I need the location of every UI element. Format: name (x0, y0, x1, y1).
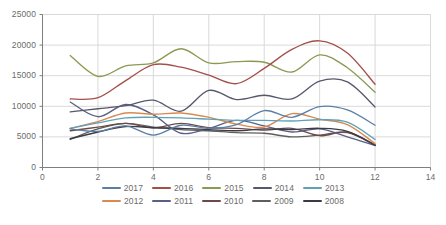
y-tick-label: 0 (0, 162, 36, 172)
legend-label: 2008 (325, 196, 344, 206)
series-group (70, 41, 375, 146)
legend-item-2012[interactable]: 2012 (102, 196, 143, 206)
x-tick-label: 10 (308, 172, 332, 182)
y-tick-label: 20000 (0, 40, 36, 50)
legend-label: 2013 (325, 183, 344, 193)
y-tick-label: 15000 (0, 70, 36, 80)
legend-item-2016[interactable]: 2016 (152, 183, 193, 193)
legend-swatch-icon (202, 187, 221, 189)
x-tick-label: 8 (252, 172, 276, 182)
legend-label: 2016 (174, 183, 193, 193)
legend-label: 2015 (224, 183, 243, 193)
legend-label: 2011 (174, 196, 193, 206)
legend-item-2014[interactable]: 2014 (253, 183, 294, 193)
legend-item-2015[interactable]: 2015 (202, 183, 243, 193)
chart-legend: 20172016201520142013 2012201120102009200… (0, 181, 446, 221)
legend-item-2008[interactable]: 2008 (303, 196, 344, 206)
legend-item-2017[interactable]: 2017 (102, 183, 143, 193)
legend-item-2010[interactable]: 2010 (202, 196, 243, 206)
x-tick-label: 4 (141, 172, 165, 182)
legend-swatch-icon (253, 187, 272, 189)
x-tick-label: 2 (86, 172, 110, 182)
legend-item-2011[interactable]: 2011 (152, 196, 193, 206)
plot-svg (0, 0, 446, 180)
series-line-2008 (70, 126, 375, 145)
legend-label: 2012 (124, 196, 143, 206)
legend-swatch-icon (252, 200, 271, 202)
legend-swatch-icon (202, 200, 221, 202)
y-tick-label: 10000 (0, 101, 36, 111)
legend-label: 2014 (275, 183, 294, 193)
legend-label: 2017 (124, 183, 143, 193)
legend-label: 2009 (274, 196, 293, 206)
y-tick-label: 25000 (0, 9, 36, 19)
plot-area (0, 0, 446, 180)
legend-row-bottom: 20122011201020092008 (0, 194, 446, 207)
legend-swatch-icon (303, 200, 322, 202)
x-tick-label: 6 (197, 172, 221, 182)
legend-swatch-icon (102, 187, 121, 189)
line-chart: 0500010000150002000025000 02468101214 20… (0, 0, 446, 225)
legend-item-2013[interactable]: 2013 (303, 183, 344, 193)
x-tick-label: 14 (419, 172, 443, 182)
x-tick-label: 12 (363, 172, 387, 182)
series-line-2015 (70, 49, 375, 92)
legend-item-2009[interactable]: 2009 (252, 196, 293, 206)
legend-label: 2010 (224, 196, 243, 206)
x-tick-label: 0 (31, 172, 55, 182)
legend-swatch-icon (303, 187, 322, 189)
legend-swatch-icon (152, 200, 171, 202)
y-tick-label: 5000 (0, 131, 36, 141)
legend-swatch-icon (102, 200, 121, 202)
legend-swatch-icon (152, 187, 171, 189)
legend-row-top: 20172016201520142013 (0, 181, 446, 194)
